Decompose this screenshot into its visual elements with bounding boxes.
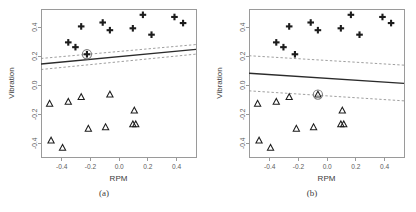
plot-frame-b <box>249 9 404 157</box>
figure-root: -0.4-0.20.00.20.4-0.4-0.20.00.20.4RPMVib… <box>0 0 416 212</box>
y-tick-label-b-0: -0.4 <box>239 137 246 149</box>
x-tick-label-b-0: -0.4 <box>264 163 276 170</box>
y-tick-label-b-1: -0.2 <box>239 108 246 120</box>
ci-upper-line-b <box>249 56 404 65</box>
y-tick-label-a-3: 0.2 <box>31 51 38 60</box>
marker-triangle-b-6 <box>310 124 316 130</box>
marker-triangle-a-0 <box>46 100 52 106</box>
x-axis-title-a: RPM <box>110 174 128 183</box>
panel-caption-b: (b) <box>307 188 318 198</box>
marker-triangle-a-3 <box>65 98 71 104</box>
marker-triangle-b-2 <box>267 144 273 150</box>
marker-triangle-b-5 <box>293 125 299 131</box>
scatter-panel-a: -0.4-0.20.00.20.4-0.4-0.20.00.20.4RPMVib… <box>0 0 208 212</box>
x-axis-title-b: RPM <box>318 174 336 183</box>
x-tick-label-a-0: -0.4 <box>56 163 68 170</box>
marker-triangle-b-3 <box>273 98 279 104</box>
x-tick-label-a-4: 0.4 <box>172 163 181 170</box>
y-tick-label-b-4: 0.4 <box>239 22 246 31</box>
plot-canvas-a: -0.4-0.20.00.20.4-0.4-0.20.00.20.4RPMVib… <box>0 0 208 212</box>
y-tick-label-a-1: -0.2 <box>31 108 38 120</box>
marker-triangle-a-4 <box>78 94 84 100</box>
x-tick-label-a-3: 0.2 <box>143 163 152 170</box>
x-tick-label-b-3: 0.2 <box>351 163 360 170</box>
x-tick-label-b-1: -0.2 <box>293 163 305 170</box>
x-tick-label-a-2: 0.0 <box>115 163 124 170</box>
plot-content-b <box>249 12 404 151</box>
plot-content-a <box>41 12 196 151</box>
marker-triangle-b-0 <box>254 100 260 106</box>
x-tick-label-a-1: -0.2 <box>85 163 97 170</box>
regression-line-b <box>249 73 404 83</box>
marker-triangle-a-6 <box>102 124 108 130</box>
plot-canvas-b: -0.4-0.20.00.20.4-0.4-0.20.00.20.4RPMVib… <box>208 0 416 212</box>
marker-triangle-a-2 <box>59 144 65 150</box>
marker-triangle-b-1 <box>256 137 262 143</box>
y-tick-label-a-2: 0.0 <box>31 80 38 89</box>
marker-triangle-a-7 <box>107 91 113 97</box>
marker-triangle-b-4 <box>286 94 292 100</box>
y-tick-label-b-3: 0.2 <box>239 51 246 60</box>
marker-triangle-b-7 <box>315 91 321 97</box>
y-axis-title-a: Vibration <box>7 67 16 98</box>
marker-triangle-a-9 <box>131 107 137 113</box>
marker-triangle-b-9 <box>339 107 345 113</box>
panel-caption-a: (a) <box>99 188 109 198</box>
ci-lower-line-b <box>249 91 404 101</box>
x-tick-label-b-4: 0.4 <box>380 163 389 170</box>
y-axis-title-b: Vibration <box>215 67 224 98</box>
marker-triangle-a-1 <box>48 137 54 143</box>
y-tick-label-a-4: 0.4 <box>31 22 38 31</box>
y-tick-label-b-2: 0.0 <box>239 80 246 89</box>
marker-triangle-a-5 <box>85 125 91 131</box>
plot-frame-a <box>41 9 196 157</box>
y-tick-label-a-0: -0.4 <box>31 137 38 149</box>
x-tick-label-b-2: 0.0 <box>323 163 332 170</box>
scatter-panel-b: -0.4-0.20.00.20.4-0.4-0.20.00.20.4RPMVib… <box>208 0 416 212</box>
